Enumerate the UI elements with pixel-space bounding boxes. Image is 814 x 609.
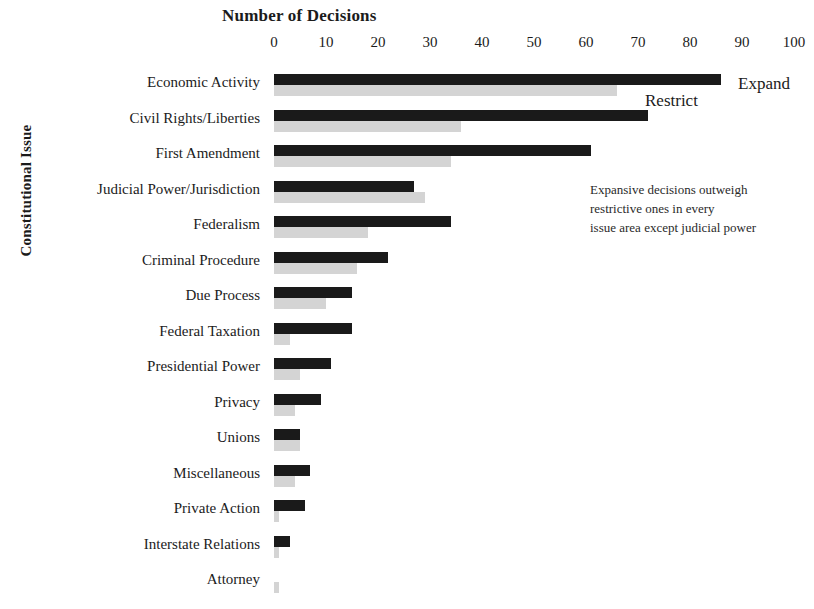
chart-row: Presidential Power	[274, 356, 794, 390]
chart-container: Number of Decisions Constitutional Issue…	[0, 0, 814, 609]
legend-label-restrict: Restrict	[645, 91, 698, 111]
bar-expand-11	[274, 465, 310, 476]
category-label-judicial-power-jurisdiction: Judicial Power/Jurisdiction	[97, 181, 260, 197]
annotation-line-2: issue area except judicial power	[590, 218, 810, 237]
legend-label-expand: Expand	[738, 74, 790, 94]
bar-restrict-7	[274, 334, 290, 345]
bar-expand-3	[274, 181, 414, 192]
x-axis-tick-90: 90	[722, 34, 762, 51]
bar-restrict-4	[274, 227, 368, 238]
bar-restrict-9	[274, 405, 295, 416]
bar-expand-1	[274, 110, 648, 121]
category-label-civil-rights-liberties: Civil Rights/Liberties	[130, 110, 260, 126]
category-label-attorney: Attorney	[207, 571, 260, 587]
category-label-first-amendment: First Amendment	[155, 145, 260, 161]
plot-area: Economic ActivityCivil Rights/LibertiesF…	[274, 72, 794, 602]
x-axis-tick-labels: 0102030405060708090100	[0, 34, 814, 54]
bar-restrict-6	[274, 298, 326, 309]
bar-expand-5	[274, 252, 388, 263]
category-label-unions: Unions	[217, 429, 260, 445]
x-axis-tick-30: 30	[410, 34, 450, 51]
x-axis-tick-10: 10	[306, 34, 346, 51]
category-label-criminal-procedure: Criminal Procedure	[142, 252, 260, 268]
bar-restrict-3	[274, 192, 425, 203]
chart-row: First Amendment	[274, 143, 794, 177]
annotation-line-0: Expansive decisions outweigh	[590, 180, 810, 199]
category-label-presidential-power: Presidential Power	[147, 358, 260, 374]
bar-restrict-2	[274, 156, 451, 167]
bar-restrict-14	[274, 582, 279, 593]
category-label-interstate-relations: Interstate Relations	[144, 536, 260, 552]
bar-expand-12	[274, 500, 305, 511]
y-axis-title: Constitutional Issue	[18, 121, 35, 261]
chart-annotation: Expansive decisions outweighrestrictive …	[590, 180, 810, 237]
bar-expand-13	[274, 536, 290, 547]
chart-row: Attorney	[274, 569, 794, 603]
chart-row: Economic Activity	[274, 72, 794, 106]
bar-restrict-5	[274, 263, 357, 274]
x-axis-tick-70: 70	[618, 34, 658, 51]
x-axis-tick-20: 20	[358, 34, 398, 51]
chart-row: Privacy	[274, 392, 794, 426]
bar-restrict-13	[274, 547, 279, 558]
chart-row: Due Process	[274, 285, 794, 319]
bar-restrict-1	[274, 121, 461, 132]
chart-row: Private Action	[274, 498, 794, 532]
chart-row: Federal Taxation	[274, 321, 794, 355]
bar-expand-4	[274, 216, 451, 227]
chart-row: Miscellaneous	[274, 463, 794, 497]
chart-row: Civil Rights/Liberties	[274, 108, 794, 142]
x-axis-tick-0: 0	[254, 34, 294, 51]
bar-expand-0	[274, 74, 721, 85]
bar-restrict-12	[274, 511, 279, 522]
chart-row: Interstate Relations	[274, 534, 794, 568]
bar-restrict-8	[274, 369, 300, 380]
category-label-economic-activity: Economic Activity	[147, 74, 260, 90]
x-axis-tick-60: 60	[566, 34, 606, 51]
bar-expand-2	[274, 145, 591, 156]
bar-expand-8	[274, 358, 331, 369]
x-axis-tick-80: 80	[670, 34, 710, 51]
x-axis-tick-50: 50	[514, 34, 554, 51]
bar-restrict-10	[274, 440, 300, 451]
bar-expand-10	[274, 429, 300, 440]
category-label-due-process: Due Process	[185, 287, 260, 303]
category-label-miscellaneous: Miscellaneous	[173, 465, 260, 481]
bar-restrict-0	[274, 85, 617, 96]
chart-title: Number of Decisions	[222, 6, 377, 26]
category-label-private-action: Private Action	[174, 500, 260, 516]
chart-row: Criminal Procedure	[274, 250, 794, 284]
x-axis-tick-100: 100	[774, 34, 814, 51]
category-label-federal-taxation: Federal Taxation	[159, 323, 260, 339]
bar-expand-6	[274, 287, 352, 298]
category-label-privacy: Privacy	[214, 394, 260, 410]
bar-restrict-11	[274, 476, 295, 487]
chart-row: Unions	[274, 427, 794, 461]
x-axis-tick-40: 40	[462, 34, 502, 51]
category-label-federalism: Federalism	[193, 216, 260, 232]
bar-expand-7	[274, 323, 352, 334]
bar-expand-9	[274, 394, 321, 405]
annotation-line-1: restrictive ones in every	[590, 199, 810, 218]
